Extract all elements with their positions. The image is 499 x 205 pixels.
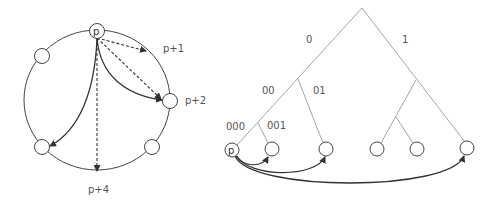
arrow-p-to-p1-dashed — [97, 38, 146, 51]
arrow-p-to-lowerleft-curve — [50, 38, 97, 146]
edge-label-0: 0 — [306, 34, 312, 45]
ring-node-lower-right — [145, 140, 160, 155]
label-p-plus-4: p+4 — [88, 184, 109, 195]
tree-leaf-11 — [460, 141, 474, 155]
tree-edge-1-left — [381, 80, 416, 143]
tree-edge-root-right — [362, 8, 465, 142]
ring-node-p-label: p — [93, 26, 99, 37]
tree-leaf-01 — [319, 142, 333, 156]
tree-edge-root-left — [237, 8, 362, 145]
ring-node-p2 — [163, 94, 178, 109]
label-p-plus-2: p+2 — [185, 95, 206, 106]
edge-label-01: 01 — [313, 85, 326, 96]
tree-leaf-100 — [370, 142, 384, 156]
edge-label-1: 1 — [402, 34, 408, 45]
arrow-p-to-leaf-1 — [235, 156, 464, 183]
edge-label-000: 000 — [226, 121, 245, 132]
tree-diagram: p 0 1 00 01 000 001 — [225, 8, 474, 183]
tree-edge-1-left-right — [396, 117, 413, 143]
tree-leaf-101 — [410, 142, 424, 156]
edge-label-001: 001 — [267, 120, 286, 131]
ring-diagram: p p+1 p+2 p+4 — [24, 24, 206, 196]
edge-label-00: 00 — [262, 85, 275, 96]
ring-node-lower-left — [35, 140, 50, 155]
tree-leaf-p-label: p — [228, 145, 234, 156]
tree-leaf-001 — [265, 142, 279, 156]
label-p-plus-1: p+1 — [163, 43, 184, 54]
ring-node-upper-left — [35, 49, 50, 64]
diagram-canvas: p p+1 p+2 p+4 p 0 1 00 — [0, 0, 499, 205]
